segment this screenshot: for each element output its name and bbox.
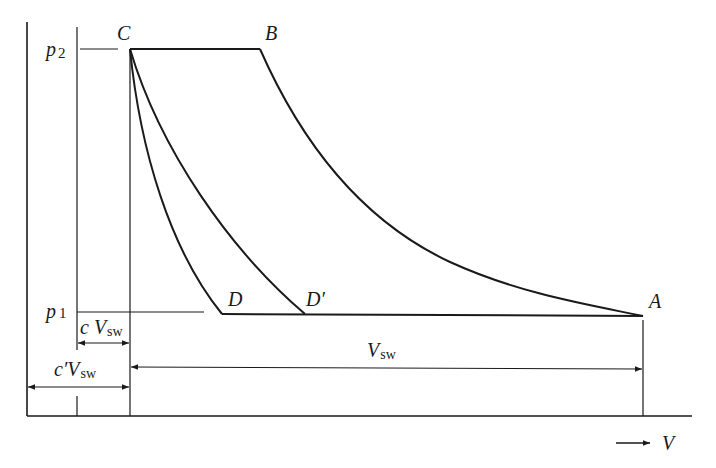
pv-diagram: C B D D′ A p2 p1 c Vsw Vsw c′Vsw V <box>0 0 716 468</box>
swept-volume-label: Vsw <box>367 339 397 362</box>
point-b-label: B <box>265 22 277 44</box>
point-d-label: D <box>227 288 243 310</box>
point-c-label: C <box>117 22 131 44</box>
p1-label: p1 <box>44 300 67 323</box>
point-a-label: A <box>647 290 662 312</box>
p2-label: p2 <box>44 38 66 61</box>
swept-volume-dimension-arrow <box>131 367 642 369</box>
clearance-prime-volume-label: c′Vsw <box>54 358 97 381</box>
clearance-volume-label: c Vsw <box>80 316 124 339</box>
volume-axis-label: V <box>662 432 677 454</box>
intake-line <box>222 314 643 316</box>
compression-curve-ab <box>260 49 643 316</box>
point-d-prime-label: D′ <box>305 288 325 310</box>
